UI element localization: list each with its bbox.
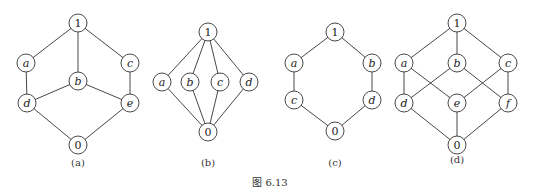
node-label: d xyxy=(245,76,252,89)
node-label: d xyxy=(400,97,407,110)
node-label: 1 xyxy=(454,17,461,30)
node-label: 1 xyxy=(332,26,339,39)
node-label: c xyxy=(291,94,297,107)
node-label: 1 xyxy=(75,17,82,30)
node-c-0: 0 xyxy=(326,122,344,140)
node-label: a xyxy=(291,57,298,70)
node-label: c xyxy=(127,57,133,70)
node-c-a: a xyxy=(285,54,303,72)
node-d-f: f xyxy=(499,94,517,112)
figure-caption: 图 6.13 xyxy=(252,177,287,188)
node-c-d: d xyxy=(363,91,381,109)
node-label: 0 xyxy=(205,126,212,139)
node-a-1: 1 xyxy=(69,14,87,32)
node-a-a: a xyxy=(17,54,35,72)
node-d-a: a xyxy=(395,54,413,72)
node-label: 0 xyxy=(332,125,339,138)
node-label: d xyxy=(23,97,30,110)
subfigure-label-d: (d) xyxy=(450,154,464,165)
node-d-b: b xyxy=(448,54,466,72)
node-label: 0 xyxy=(454,139,461,152)
node-d-1: 1 xyxy=(448,14,466,32)
node-label: 1 xyxy=(205,26,212,39)
node-c-b: b xyxy=(363,54,381,72)
node-label: e xyxy=(454,97,461,110)
node-label: a xyxy=(23,57,30,70)
node-label: b xyxy=(74,75,81,88)
node-b-c: c xyxy=(211,73,229,91)
edge-d-f-0 xyxy=(457,103,508,145)
subfigure-label-a: (a) xyxy=(71,157,85,168)
node-c-c: c xyxy=(285,91,303,109)
node-a-e: e xyxy=(121,94,139,112)
node-label: c xyxy=(505,57,511,70)
node-d-e: e xyxy=(448,94,466,112)
node-d-0: 0 xyxy=(448,136,466,154)
node-a-0: 0 xyxy=(69,136,87,154)
node-label: b xyxy=(186,76,193,89)
node-b-0: 0 xyxy=(199,123,217,141)
subfigure-label-c: (c) xyxy=(328,157,342,168)
node-label: b xyxy=(453,57,460,70)
node-b-d: d xyxy=(240,73,258,91)
edge-a-d-0 xyxy=(27,103,78,145)
edge-a-1-a xyxy=(26,23,78,63)
node-label: e xyxy=(127,97,134,110)
node-label: 0 xyxy=(75,139,82,152)
node-a-b: b xyxy=(69,72,87,90)
edge-d-1-c xyxy=(457,23,508,63)
edge-a-1-c xyxy=(78,23,130,63)
node-label: c xyxy=(217,76,223,89)
node-label: a xyxy=(401,57,408,70)
edge-d-d-0 xyxy=(404,103,457,145)
figure-canvas: 1abcde01abcd01abcd01abcdef0 (a)(b)(c)(d)… xyxy=(0,0,533,193)
node-a-d: d xyxy=(18,94,36,112)
node-d-c: c xyxy=(499,54,517,72)
edge-a-e-0 xyxy=(78,103,130,145)
node-b-1: 1 xyxy=(199,23,217,41)
node-a-c: c xyxy=(121,54,139,72)
node-c-1: 1 xyxy=(326,23,344,41)
edge-d-1-a xyxy=(404,23,457,63)
node-label: b xyxy=(368,57,375,70)
node-d-d: d xyxy=(395,94,413,112)
node-label: d xyxy=(368,94,375,107)
node-b-b: b xyxy=(181,73,199,91)
subfigure-label-b: (b) xyxy=(201,157,215,168)
node-label: a xyxy=(159,76,166,89)
labels-layer: (a)(b)(c)(d) xyxy=(71,154,464,168)
edges-layer xyxy=(26,23,508,145)
node-b-a: a xyxy=(153,73,171,91)
